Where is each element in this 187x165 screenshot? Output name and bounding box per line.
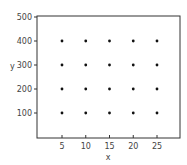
y-axis: 100200300400500 (17, 13, 37, 118)
y-tick-label: 400 (17, 37, 32, 46)
x-axis: 510152025 (59, 135, 162, 151)
data-point (61, 64, 64, 67)
data-point (84, 88, 87, 91)
y-axis-label: y (10, 62, 15, 71)
data-point (156, 88, 159, 91)
data-point (61, 112, 64, 115)
data-point (108, 64, 111, 67)
y-tick-label: 300 (17, 61, 32, 70)
data-points (61, 40, 159, 115)
data-point (108, 88, 111, 91)
data-point (132, 112, 135, 115)
x-tick-label: 10 (81, 142, 91, 151)
data-point (84, 112, 87, 115)
data-point (108, 40, 111, 43)
x-tick-label: 25 (152, 142, 162, 151)
data-point (132, 88, 135, 91)
data-point (156, 64, 159, 67)
data-point (156, 40, 159, 43)
x-tick-label: 5 (59, 142, 64, 151)
data-point (132, 40, 135, 43)
y-tick-label: 200 (17, 85, 32, 94)
data-point (61, 40, 64, 43)
x-axis-label: x (106, 153, 111, 162)
plot-frame (37, 16, 180, 138)
data-point (108, 112, 111, 115)
data-point (61, 88, 64, 91)
scatter-chart: 100200300400500 510152025 y x (0, 0, 187, 165)
y-tick-label: 100 (17, 109, 32, 118)
data-point (156, 112, 159, 115)
y-tick-label: 500 (17, 13, 32, 22)
data-point (132, 64, 135, 67)
data-point (84, 40, 87, 43)
x-tick-label: 20 (128, 142, 138, 151)
data-point (84, 64, 87, 67)
x-tick-label: 15 (104, 142, 114, 151)
